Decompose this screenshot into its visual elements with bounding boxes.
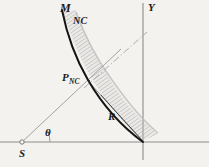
- point-s-marker: [20, 140, 24, 144]
- label-segment-r: R: [108, 111, 116, 122]
- label-point-pnc-base: P: [62, 71, 69, 83]
- point-pnc-marker: [88, 80, 90, 82]
- label-curve-top-m: M: [60, 2, 71, 14]
- label-point-s: S: [19, 148, 25, 159]
- label-vertical-axis-y: Y: [148, 2, 155, 13]
- label-point-pnc-subscript: NC: [69, 77, 80, 86]
- figure-container: M NC Y PNC R θ S: [0, 0, 209, 167]
- label-angle-theta: θ: [45, 127, 51, 138]
- figure-drawing: [0, 0, 209, 167]
- label-band-nc: NC: [73, 16, 87, 26]
- label-point-pnc: PNC: [62, 72, 80, 83]
